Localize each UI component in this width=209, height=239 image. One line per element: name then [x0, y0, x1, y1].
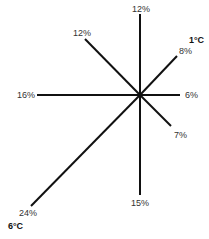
temp-sw: 6°C — [8, 222, 23, 231]
label-e: 6% — [185, 91, 198, 100]
label-nw: 12% — [73, 29, 91, 38]
label-ne: 8% — [179, 47, 192, 56]
wind-rose-plot — [0, 0, 209, 239]
label-n: 12% — [132, 5, 150, 14]
spoke-se — [140, 95, 171, 126]
temp-ne: 1°C — [189, 36, 204, 45]
spoke-nw — [85, 39, 140, 95]
spoke-ne — [140, 56, 177, 95]
center-dot — [138, 93, 142, 97]
label-s: 15% — [131, 199, 149, 208]
spoke-sw — [31, 95, 140, 206]
label-sw: 24% — [19, 209, 37, 218]
label-w: 16% — [17, 91, 35, 100]
label-se: 7% — [174, 131, 187, 140]
